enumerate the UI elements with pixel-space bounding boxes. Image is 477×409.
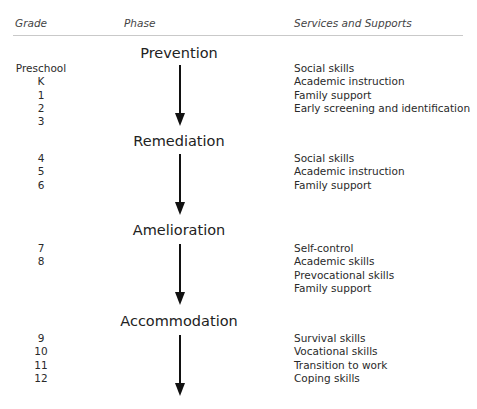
service-item: Early screening and identification bbox=[294, 102, 470, 115]
service-item: Self-control bbox=[294, 242, 394, 255]
phase-label-accommodation: Accommodation bbox=[89, 313, 269, 329]
grade-item: 4 bbox=[14, 152, 68, 165]
grade-item: K bbox=[14, 75, 68, 88]
service-item: Coping skills bbox=[294, 372, 387, 385]
service-item: Social skills bbox=[294, 62, 470, 75]
phase-label-amelioration: Amelioration bbox=[89, 222, 269, 238]
services-column-header: Services and Supports bbox=[294, 17, 412, 29]
grade-item: 1 bbox=[14, 89, 68, 102]
services-prevention: Social skills Academic instruction Famil… bbox=[294, 62, 470, 115]
service-item: Transition to work bbox=[294, 359, 387, 372]
grade-item: Preschool bbox=[14, 62, 68, 75]
service-item: Prevocational skills bbox=[294, 269, 394, 282]
grades-prevention: Preschool K 1 2 3 bbox=[14, 62, 68, 128]
service-item: Academic skills bbox=[294, 255, 394, 268]
phase-column-header: Phase bbox=[124, 17, 155, 29]
grade-item: 2 bbox=[14, 102, 68, 115]
service-item: Family support bbox=[294, 282, 394, 295]
service-item: Survival skills bbox=[294, 332, 387, 345]
down-arrow-icon bbox=[176, 65, 184, 126]
service-item: Vocational skills bbox=[294, 345, 387, 358]
grade-item: 6 bbox=[14, 179, 68, 192]
grades-accommodation: 9 10 11 12 bbox=[14, 332, 68, 385]
service-item: Family support bbox=[294, 179, 405, 192]
services-amelioration: Self-control Academic skills Prevocation… bbox=[294, 242, 394, 295]
grade-item: 8 bbox=[14, 255, 68, 268]
services-accommodation: Survival skills Vocational skills Transi… bbox=[294, 332, 387, 385]
service-item: Academic instruction bbox=[294, 75, 470, 88]
grade-item: 7 bbox=[14, 242, 68, 255]
grades-amelioration: 7 8 bbox=[14, 242, 68, 269]
down-arrow-icon bbox=[176, 154, 184, 215]
service-item: Academic instruction bbox=[294, 165, 405, 178]
phase-label-prevention: Prevention bbox=[89, 45, 269, 61]
service-item: Family support bbox=[294, 89, 470, 102]
grades-remediation: 4 5 6 bbox=[14, 152, 68, 192]
grade-item: 12 bbox=[14, 372, 68, 385]
services-remediation: Social skills Academic instruction Famil… bbox=[294, 152, 405, 192]
service-item: Social skills bbox=[294, 152, 405, 165]
down-arrow-icon bbox=[176, 244, 184, 305]
grade-item: 5 bbox=[14, 165, 68, 178]
header-divider bbox=[13, 35, 463, 36]
grade-item: 3 bbox=[14, 115, 68, 128]
down-arrow-icon bbox=[176, 335, 184, 396]
phase-label-remediation: Remediation bbox=[89, 133, 269, 149]
grade-item: 11 bbox=[14, 359, 68, 372]
grade-column-header: Grade bbox=[15, 17, 47, 29]
grade-item: 9 bbox=[14, 332, 68, 345]
grade-item: 10 bbox=[14, 345, 68, 358]
